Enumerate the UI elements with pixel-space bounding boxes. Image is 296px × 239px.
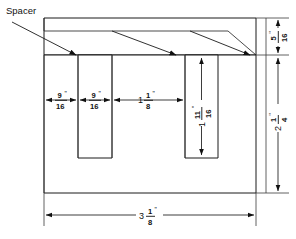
svg-text:5: 5 — [269, 36, 278, 41]
svg-text:8: 8 — [146, 102, 150, 111]
svg-text:1: 1 — [138, 95, 143, 105]
spacer-label: Spacer — [6, 5, 36, 16]
svg-text:16: 16 — [204, 110, 213, 118]
svg-text:": " — [268, 113, 275, 116]
svg-text:4: 4 — [280, 117, 289, 122]
svg-text:8: 8 — [148, 218, 152, 227]
svg-text:16: 16 — [90, 102, 98, 111]
spacer-body — [44, 55, 256, 193]
svg-text:": " — [155, 206, 158, 213]
svg-text:1: 1 — [269, 117, 278, 122]
dim-label-strip-thickness: 5 " 16 — [268, 31, 290, 44]
spacer-drawing: Spacer 9 " 16 9 " 16 1 1 " 8 1 11 " — [0, 0, 296, 239]
dim-label-overall-height: 2 1 " 4 — [268, 113, 290, 132]
strip-front-face — [44, 18, 256, 55]
technical-drawing-canvas: Spacer 9 " 16 9 " 16 1 1 " 8 1 11 " — [0, 0, 296, 239]
svg-text:3: 3 — [139, 211, 144, 221]
svg-text:1: 1 — [148, 207, 153, 216]
svg-text:11: 11 — [193, 110, 202, 119]
svg-text:": " — [268, 31, 275, 34]
body-outline — [44, 55, 256, 193]
svg-text:16: 16 — [56, 102, 64, 111]
spacer-top-strip — [44, 18, 256, 55]
svg-text:16: 16 — [280, 34, 289, 42]
svg-text:9: 9 — [92, 91, 96, 100]
svg-text:1: 1 — [197, 122, 207, 127]
dim-label-overall-width: 3 1 " 8 — [139, 206, 158, 228]
svg-text:2: 2 — [273, 126, 283, 131]
svg-text:9: 9 — [58, 91, 62, 100]
